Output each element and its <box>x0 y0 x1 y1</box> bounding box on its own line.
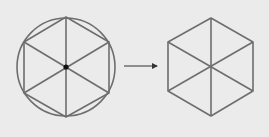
hexagon-figure <box>168 18 253 116</box>
hexagon-in-circle-figure <box>17 17 115 117</box>
diagram-canvas <box>0 0 269 137</box>
center-point-dot <box>63 64 68 69</box>
